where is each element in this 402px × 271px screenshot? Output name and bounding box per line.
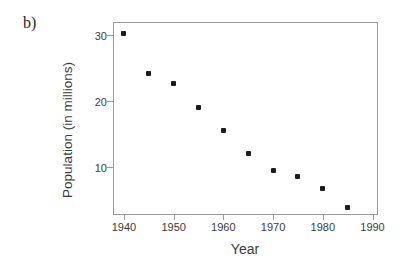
scatterplot-figure: b) 194019501960197019801990102030 Year P… xyxy=(0,0,402,271)
data-point xyxy=(221,128,226,133)
figure-part-label: b) xyxy=(23,14,36,32)
x-tick-label: 1970 xyxy=(256,221,290,233)
data-point xyxy=(246,151,251,156)
y-tick-label: 30 xyxy=(81,30,107,42)
data-point xyxy=(196,105,201,110)
data-point xyxy=(295,174,300,179)
x-tick-mark xyxy=(273,215,274,220)
data-point xyxy=(271,168,276,173)
x-tick-label: 1980 xyxy=(306,221,340,233)
x-axis-title: Year xyxy=(215,241,275,257)
x-tick-mark xyxy=(223,215,224,220)
data-point xyxy=(146,71,151,76)
y-tick-mark xyxy=(107,101,113,102)
x-tick-mark xyxy=(124,215,125,220)
plot-frame xyxy=(113,22,378,215)
x-tick-label: 1950 xyxy=(157,221,191,233)
y-tick-mark xyxy=(107,35,113,36)
x-tick-mark xyxy=(174,215,175,220)
x-tick-label: 1940 xyxy=(107,221,141,233)
data-point xyxy=(320,186,325,191)
x-tick-mark xyxy=(323,215,324,220)
x-tick-label: 1990 xyxy=(356,221,390,233)
data-point xyxy=(345,205,350,210)
data-point xyxy=(121,31,126,36)
y-axis-title: Population (in millions) xyxy=(60,24,76,236)
y-tick-label: 10 xyxy=(81,162,107,174)
x-tick-mark xyxy=(373,215,374,220)
y-tick-mark xyxy=(107,167,113,168)
x-tick-label: 1960 xyxy=(206,221,240,233)
data-point xyxy=(171,81,176,86)
y-tick-label: 20 xyxy=(81,96,107,108)
